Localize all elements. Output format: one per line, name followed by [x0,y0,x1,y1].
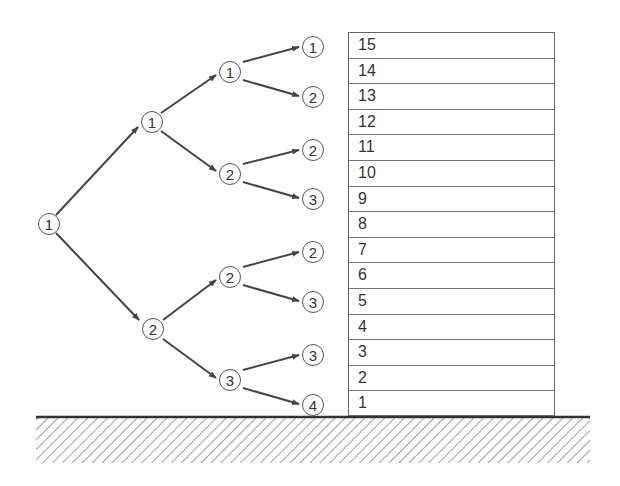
floor-row: 8 [349,212,554,238]
floor-row: 5 [349,289,554,315]
tree-node-l3-d: 3 [302,188,324,210]
tree-node-l2-d: 3 [219,369,241,391]
tree-node-l1-a: 1 [141,111,163,133]
tree-node-l3-g: 3 [302,344,324,366]
tree-node-l3-h: 4 [302,394,324,416]
edges [56,47,299,404]
tree-node-l2-b: 2 [219,163,241,185]
tree-node-l3-e: 2 [302,241,324,263]
floor-row: 10 [349,161,554,187]
ground-hatch [36,418,590,463]
diagram-canvas: 1 1 2 1 2 2 3 1 2 2 3 2 3 3 4 15 14 13 1… [0,0,620,486]
floor-row: 15 [349,33,554,59]
floor-stack: 15 14 13 12 11 10 9 8 7 6 5 4 3 2 1 [348,32,555,416]
floor-row: 11 [349,135,554,161]
floor-row: 2 [349,366,554,392]
floor-row: 1 [349,391,554,417]
tree-node-l3-f: 3 [302,291,324,313]
tree-node-l3-c: 2 [302,139,324,161]
floor-row: 12 [349,110,554,136]
tree-node-l3-a: 1 [302,36,324,58]
tree-node-root: 1 [38,213,60,235]
floor-row: 6 [349,263,554,289]
floor-row: 4 [349,315,554,341]
floor-row: 13 [349,84,554,110]
tree-node-l3-b: 2 [302,86,324,108]
floor-row: 3 [349,340,554,366]
tree-node-l2-c: 2 [219,266,241,288]
floor-row: 9 [349,187,554,213]
floor-row: 14 [349,59,554,85]
floor-row: 7 [349,238,554,264]
tree-node-l2-a: 1 [219,61,241,83]
tree-node-l1-b: 2 [142,318,164,340]
